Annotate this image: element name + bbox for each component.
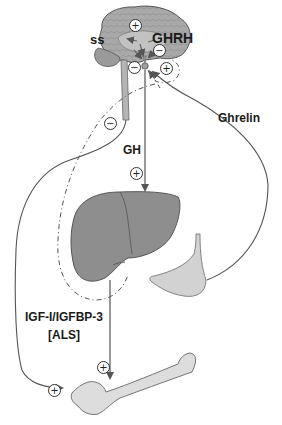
brain-stimulation-sign: +	[129, 19, 142, 32]
gh-stimulation-sign: +	[130, 167, 143, 180]
igf-label: IGF-I/IGFBP-3	[25, 311, 103, 323]
ghrh-inhibition-sign: −	[153, 44, 166, 57]
ss-inhibition-sign: −	[128, 61, 141, 74]
ghrelin-arrow	[153, 72, 268, 280]
ghrelin-stimulation-sign: +	[160, 62, 173, 75]
gh-label: GH	[123, 144, 141, 156]
igf-stimulation-sign: +	[97, 361, 110, 374]
gh-igf-axis-diagram: ss GHRH GH Ghrelin IGF-I/IGFBP-3 [ALS] +…	[0, 0, 282, 425]
diagram-canvas	[0, 0, 282, 425]
somatostatin-label: ss	[90, 33, 104, 46]
bone-stimulation-sign: +	[48, 384, 61, 397]
bone-icon	[71, 353, 195, 415]
feedback-inhibition-sign: −	[104, 117, 117, 130]
liver-icon	[71, 192, 180, 281]
ghrelin-label: Ghrelin	[218, 112, 260, 124]
ghrh-label: GHRH	[152, 31, 193, 45]
als-label: [ALS]	[48, 329, 80, 341]
